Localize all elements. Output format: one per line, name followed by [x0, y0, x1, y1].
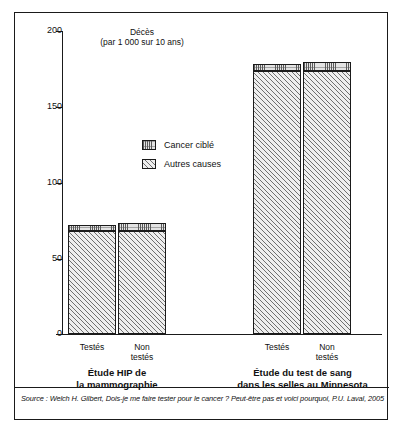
x-label-hip-non-testes-line2: testés — [112, 353, 172, 363]
bar-minnesota-non-testes-cancer-segment — [303, 62, 351, 71]
y-tick-200: 200 — [15, 31, 62, 32]
y-tick-label-150: 150 — [26, 102, 62, 111]
top-cutoff-text — [44, 0, 259, 5]
y-tick-label-50: 50 — [26, 254, 62, 263]
x-label-minnesota-non-testes: Non testés — [297, 343, 357, 362]
y-axis-title-line2: (par 1 000 sur 10 ans) — [77, 37, 207, 47]
bar-hip-non-testes-autres-segment — [118, 231, 166, 334]
legend-label-autres-causes: Autres causes — [164, 159, 221, 169]
x-label-hip-non-testes: Non testés — [112, 343, 172, 362]
x-label-minnesota-non-testes-line2: testés — [297, 353, 357, 363]
bar-minnesota-testes-autres-segment — [253, 71, 301, 334]
source-note: Source : Welch H. Gilbert, Dois-je me fa… — [21, 394, 385, 403]
x-axis-line — [62, 334, 382, 335]
y-tick-100: 100 — [15, 183, 62, 184]
bar-hip-non-testes-cancer-segment — [118, 223, 166, 231]
y-tick-label-100: 100 — [26, 178, 62, 187]
legend: Cancer ciblé Autres causes — [142, 137, 221, 175]
group-title-hip-line2: la mammographie — [57, 379, 177, 391]
y-tick-50: 50 — [15, 259, 62, 260]
legend-item-autres-causes: Autres causes — [142, 156, 221, 171]
y-tick-label-0: 0 — [26, 329, 62, 338]
source-divider — [15, 387, 389, 388]
legend-label-cancer-cible: Cancer ciblé — [164, 140, 214, 150]
bar-minnesota-non-testes-autres-segment — [303, 71, 351, 334]
legend-item-cancer-cible: Cancer ciblé — [142, 137, 221, 152]
y-tick-label-200: 200 — [26, 26, 62, 35]
y-axis-line — [62, 31, 63, 334]
figure-root: Décès (par 1 000 sur 10 ans) 200 150 100 — [0, 0, 403, 434]
legend-swatch-autres-causes — [142, 159, 156, 169]
group-title-hip-line1: Étude HIP de — [57, 367, 177, 379]
plot-area: Décès (par 1 000 sur 10 ans) 200 150 100 — [15, 13, 389, 421]
y-axis-title-line1: Décès — [77, 27, 207, 37]
bar-minnesota-testes-cancer-segment — [253, 64, 301, 72]
bar-hip-testes-autres-segment — [68, 231, 116, 334]
y-tick-150: 150 — [15, 107, 62, 108]
group-title-minnesota-line2: dans les selles au Minnesota — [215, 379, 390, 391]
chart-frame: Décès (par 1 000 sur 10 ans) 200 150 100 — [14, 12, 388, 420]
legend-swatch-cancer-cible — [142, 140, 156, 150]
group-title-minnesota-line1: Étude du test de sang — [215, 367, 390, 379]
y-tick-0: 0 — [15, 334, 62, 335]
y-axis-title: Décès (par 1 000 sur 10 ans) — [77, 27, 207, 47]
